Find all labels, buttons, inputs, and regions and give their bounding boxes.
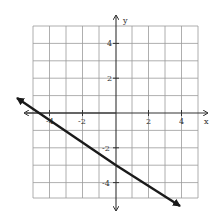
x-tick-label: 2 xyxy=(146,117,151,126)
x-tick-label: -2 xyxy=(78,117,86,126)
y-axis-label: y xyxy=(122,16,128,25)
y-tick-label: -2 xyxy=(102,144,110,153)
y-tick-label: 2 xyxy=(107,74,112,83)
x-tick-label: 4 xyxy=(179,117,184,126)
plotted-line xyxy=(17,98,180,206)
x-axis-label: x xyxy=(204,117,209,126)
coordinate-plane: y x -4 -2 2 4 4 2 -2 -4 xyxy=(0,0,219,221)
axes xyxy=(24,15,208,211)
y-tick-label: -4 xyxy=(102,179,110,188)
y-tick-label: 4 xyxy=(107,39,112,48)
